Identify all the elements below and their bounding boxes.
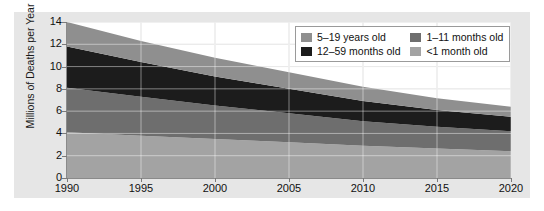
x-tick-label: 2000 (188, 182, 242, 194)
legend-swatch (410, 33, 421, 42)
x-tick-mark (437, 178, 438, 182)
x-tick-label: 1995 (114, 182, 168, 194)
x-tick-mark (363, 178, 364, 182)
x-tick-label: 2005 (262, 182, 316, 194)
x-tick-label: 2020 (484, 182, 538, 194)
legend-swatch (410, 47, 421, 56)
y-tick-label: 14 (40, 16, 62, 27)
legend-label: 12–59 months old (317, 45, 400, 57)
legend: 5–19 years old1–11 months old12–59 month… (295, 26, 510, 62)
legend-label: <1 month old (426, 45, 487, 57)
legend-entry: <1 month old (410, 45, 503, 57)
y-tick-mark (62, 44, 67, 45)
y-tick-mark (62, 89, 67, 90)
x-tick-label: 2010 (336, 182, 390, 194)
x-tick-mark (215, 178, 216, 182)
legend-swatch (301, 47, 312, 56)
y-tick-mark (62, 22, 67, 23)
legend-entry: 1–11 months old (410, 31, 503, 43)
legend-grid: 5–19 years old1–11 months old12–59 month… (301, 31, 503, 57)
y-tick-mark (62, 67, 67, 68)
x-tick-label: 1990 (40, 182, 94, 194)
y-tick-mark (62, 133, 67, 134)
legend-entry: 12–59 months old (301, 45, 400, 57)
x-tick-mark (141, 178, 142, 182)
x-tick-mark (67, 178, 68, 182)
chart-figure: Millions of Deaths per Year 02468101214 … (0, 0, 544, 211)
x-tick-mark (511, 178, 512, 182)
y-tick-mark (62, 156, 67, 157)
legend-label: 5–19 years old (317, 31, 386, 43)
legend-entry: 5–19 years old (301, 31, 400, 43)
x-tick-mark (289, 178, 290, 182)
legend-swatch (301, 33, 312, 42)
y-axis-title: Millions of Deaths per Year (24, 0, 36, 146)
legend-label: 1–11 months old (426, 31, 503, 43)
x-tick-label: 2015 (410, 182, 464, 194)
y-tick-mark (62, 111, 67, 112)
